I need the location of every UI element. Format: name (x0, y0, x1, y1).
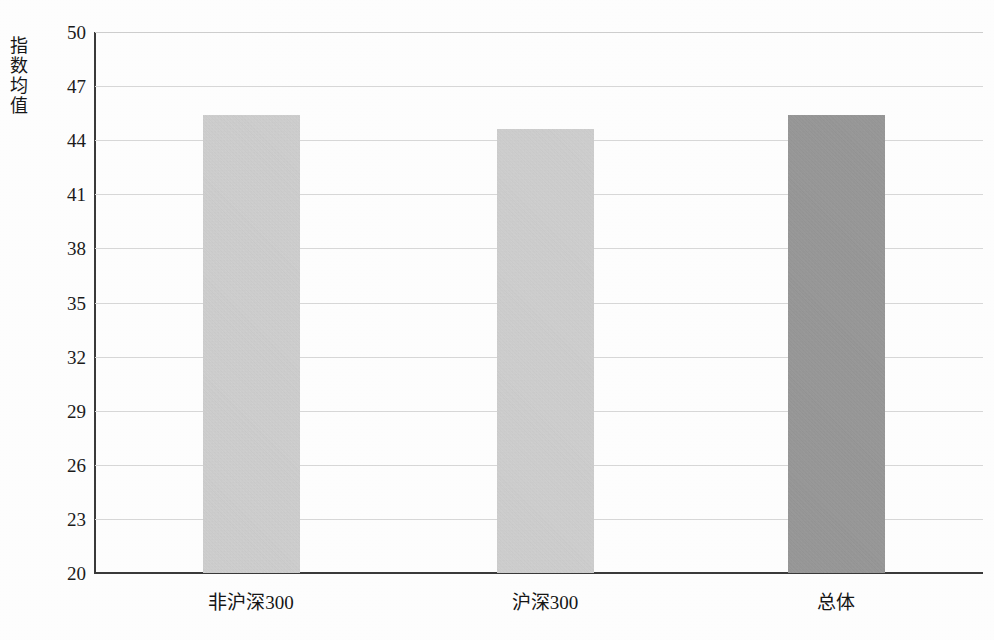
bar-texture (497, 129, 594, 573)
gridline (95, 86, 983, 87)
x-axis-label-2: 沪深300 (425, 592, 665, 614)
bar-texture (203, 115, 300, 573)
y-axis-tick-label: 47 (38, 77, 86, 96)
bar-texture (788, 115, 885, 573)
gridline (95, 32, 983, 33)
y-axis-tick-label: 29 (38, 402, 86, 421)
y-axis-tick-label: 44 (38, 131, 86, 150)
y-axis-tick-label: 32 (38, 348, 86, 367)
y-axis-tick-label: 50 (38, 23, 86, 42)
y-axis-title: 指数均值 (6, 36, 32, 116)
bar-3 (788, 115, 885, 573)
y-axis-tick-label: 23 (38, 510, 86, 529)
x-axis-label-1: 非沪深300 (131, 592, 371, 614)
y-axis-tick-label: 20 (38, 564, 86, 583)
plot-area (95, 32, 983, 573)
bar-1 (203, 115, 300, 573)
y-axis-tick-label: 38 (38, 239, 86, 258)
bar-2 (497, 129, 594, 573)
y-axis-tick-label: 26 (38, 456, 86, 475)
bar-chart-figure: 指数均值 5047444138353229262320 非沪深300沪深300总… (0, 0, 994, 640)
y-axis-tick-labels: 5047444138353229262320 (36, 0, 86, 640)
x-axis-label-3: 总体 (716, 592, 956, 614)
y-axis-tick-label: 35 (38, 294, 86, 313)
y-axis-tick-label: 41 (38, 185, 86, 204)
